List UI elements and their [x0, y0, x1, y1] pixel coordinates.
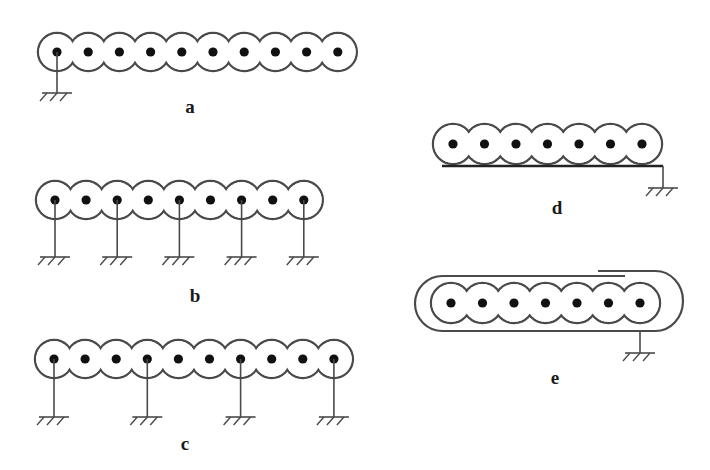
conductor-core	[84, 47, 93, 56]
panel-b	[36, 181, 323, 265]
panel-a	[38, 33, 357, 101]
ground-hatch	[37, 417, 44, 425]
panel-label-e: e	[551, 367, 559, 389]
conductor-core	[572, 298, 581, 307]
conductor-core	[271, 47, 280, 56]
conductor-core	[206, 195, 215, 204]
conductor-core	[302, 47, 311, 56]
ground-hatch	[234, 417, 241, 425]
conductor-core	[543, 139, 552, 148]
conductor-core	[446, 298, 455, 307]
ground-hatch	[666, 188, 673, 196]
conductor-core	[480, 139, 489, 148]
ground-hatch	[307, 257, 314, 265]
ground-hatch	[646, 188, 653, 196]
ground-hatch	[150, 417, 157, 425]
conductor-core	[635, 298, 644, 307]
ground-hatch	[47, 417, 54, 425]
ground-hatch	[317, 417, 324, 425]
conductor-core	[205, 354, 214, 363]
conductor-core	[509, 298, 518, 307]
ground-hatch	[60, 93, 67, 101]
cable-shield-grounding-diagram	[0, 0, 710, 470]
conductor-core	[637, 139, 646, 148]
conductor-core	[267, 354, 276, 363]
ground-hatch	[140, 417, 147, 425]
ground-hatch	[100, 257, 107, 265]
ground-hatch	[38, 257, 45, 265]
ground-hatch	[633, 353, 640, 361]
ground-hatch	[172, 257, 179, 265]
ground-hatch	[297, 257, 304, 265]
conductor-core	[333, 47, 342, 56]
panel-c	[35, 340, 353, 425]
ground-hatch	[623, 353, 630, 361]
ground-hatch	[244, 417, 251, 425]
ground-hatch	[337, 417, 344, 425]
conductor-core	[112, 354, 121, 363]
conductor-core	[574, 139, 583, 148]
ground-hatch	[162, 257, 169, 265]
conductor-core	[81, 354, 90, 363]
panel-label-c: c	[181, 433, 189, 455]
ground-hatch	[50, 93, 57, 101]
conductor-core	[115, 47, 124, 56]
ground-hatch	[40, 93, 47, 101]
ground-hatch	[287, 257, 294, 265]
ground-hatch	[120, 257, 127, 265]
conductor-core	[541, 298, 550, 307]
conductor-core	[478, 298, 487, 307]
ground-hatch	[656, 188, 663, 196]
ground-hatch	[225, 257, 232, 265]
ground-hatch	[110, 257, 117, 265]
ground-hatch	[224, 417, 231, 425]
conductor-core	[144, 195, 153, 204]
ground-hatch	[245, 257, 252, 265]
conductor-core	[146, 47, 155, 56]
conductor-core	[208, 47, 217, 56]
panel-label-b: b	[190, 285, 201, 307]
ground-hatch	[48, 257, 55, 265]
conductor-core	[604, 298, 613, 307]
ground-hatch	[130, 417, 137, 425]
conductor-core	[240, 47, 249, 56]
ground-hatch	[182, 257, 189, 265]
conductor-core	[177, 47, 186, 56]
ground-hatch	[235, 257, 242, 265]
ground-hatch	[58, 257, 65, 265]
ground-hatch	[57, 417, 64, 425]
panel-e	[415, 271, 683, 361]
conductor-core	[174, 354, 183, 363]
conductor-core	[511, 139, 520, 148]
panel-label-d: d	[552, 197, 563, 219]
panel-label-a: a	[185, 96, 195, 118]
ground-hatch	[327, 417, 334, 425]
conductor-core	[268, 195, 277, 204]
panel-d	[433, 124, 678, 196]
conductor-core	[448, 139, 457, 148]
conductor-core	[606, 139, 615, 148]
ground-hatch	[643, 353, 650, 361]
conductor-core	[82, 195, 91, 204]
conductor-core	[298, 354, 307, 363]
